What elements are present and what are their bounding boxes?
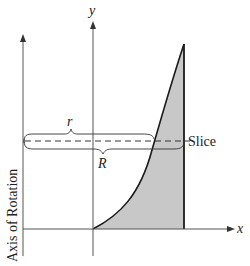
x-axis-label: x xyxy=(236,221,244,236)
shaded-region xyxy=(93,44,184,229)
axis-of-rotation-label: Axis of Rotation xyxy=(5,169,20,262)
slice-label: Slice xyxy=(188,134,216,149)
inner-radius-label: r xyxy=(67,114,73,129)
outer-radius-label: R xyxy=(97,156,107,171)
y-axis-label: y xyxy=(87,3,96,18)
diagram-canvas: y x r R Slice Axis of Rotation xyxy=(0,0,250,266)
